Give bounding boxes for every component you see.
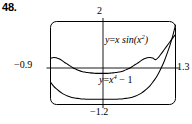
axis-label-bottom: −1.2 [90,107,108,117]
curve-label-x-sin-x-squared: y=x sin(x2) [105,35,148,45]
graph-area: 2 −1.2 −0.9 1.3 y=x sin(x2) y=x4 − 1 [0,0,192,124]
curve-label-x-fourth-minus-one: y=x4 − 1 [99,75,132,85]
curve-2-rhs-tail: − 1 [117,74,133,85]
figure-container: 48. 2 −1.2 −0.9 1.3 y=x sin(x2) y=x4 − 1 [0,0,192,124]
axis-label-left: −0.9 [14,60,32,70]
axis-label-right: 1.3 [177,62,190,72]
curve-1-rhs-lead: x sin(x [115,34,141,45]
curve-1-rhs-tail: ) [145,34,148,45]
axis-label-top: 2 [97,6,102,16]
